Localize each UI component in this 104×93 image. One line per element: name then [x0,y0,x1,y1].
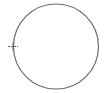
diagram-canvas [0,0,104,93]
circle-outline [14,4,99,89]
circle-diagram [0,0,104,93]
cross-marker-icon [8,42,18,51]
